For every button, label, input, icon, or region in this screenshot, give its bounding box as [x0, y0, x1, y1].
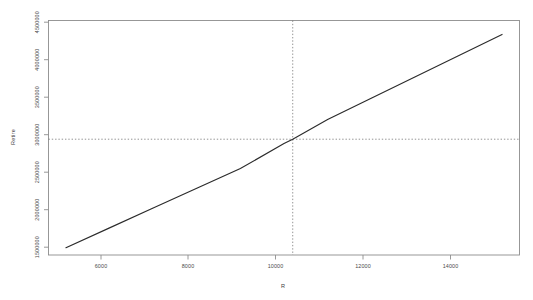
y-tick-label-3000000: 3000000: [34, 124, 40, 146]
line-chart: 4500000 4000000 3500000 3000000 2500000 …: [0, 0, 533, 300]
plot-frame: [49, 21, 520, 256]
chart-plot-area: 4500000 4000000 3500000 3000000 2500000 …: [0, 0, 533, 300]
x-tick-label-12000: 12000: [355, 263, 371, 269]
y-tick-label-4000000: 4000000: [34, 49, 40, 71]
y-tick-label-1500000: 1500000: [34, 236, 40, 258]
y-axis-title: Retire: [10, 129, 16, 145]
x-axis-ticks: [101, 255, 451, 260]
y-tick-label-2000000: 2000000: [34, 199, 40, 221]
y-tick-label-3500000: 3500000: [34, 86, 40, 108]
x-tick-label-10000: 10000: [268, 263, 284, 269]
y-tick-label-2500000: 2500000: [34, 161, 40, 183]
y-tick-label-4500000: 4500000: [34, 11, 40, 33]
x-axis-title: R: [281, 283, 285, 289]
x-axis-tick-labels: 6000 8000 10000 12000 14000: [95, 263, 459, 269]
y-axis-tick-labels: 4500000 4000000 3500000 3000000 2500000 …: [34, 11, 40, 258]
x-tick-label-6000: 6000: [95, 263, 108, 269]
x-tick-label-8000: 8000: [182, 263, 195, 269]
data-series-line: [66, 34, 502, 247]
x-tick-label-14000: 14000: [443, 263, 459, 269]
y-axis-ticks: [44, 22, 49, 247]
